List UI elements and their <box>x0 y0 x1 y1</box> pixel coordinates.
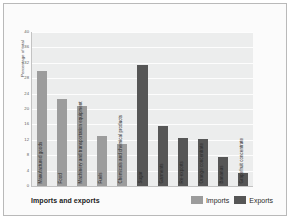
y-axis-tick-label: 16 <box>15 122 29 126</box>
y-axis-tick-label: 8 <box>15 153 29 157</box>
bar-slot: Orange concentrate <box>193 32 213 186</box>
y-axis-tick-label: 4 <box>15 168 29 172</box>
bar-slot: Sugar <box>132 32 152 186</box>
bar-group: Manufactured goodsFoodMachinery and tran… <box>32 32 253 186</box>
bar-slot: Chemicals and chemical products <box>112 32 132 186</box>
y-axis-tick-label: 0 <box>15 184 29 188</box>
x-axis-category-label: Machinery and transportation equipment <box>79 102 84 184</box>
legend-item[interactable]: Imports <box>191 196 229 204</box>
bar-slot: Bananas <box>213 32 233 186</box>
chart-screenshot: Percentage of total 0481216202428323640 … <box>0 0 292 221</box>
x-axis-category-label: Orange concentrate <box>200 143 205 184</box>
y-axis-tick-label: 36 <box>15 45 29 49</box>
x-axis-category-label: Food <box>59 174 64 184</box>
legend-item[interactable]: Exports <box>234 196 273 204</box>
legend-label: Imports <box>206 197 229 204</box>
legend: ImportsExports <box>191 196 273 204</box>
y-axis-tick-label: 32 <box>15 61 29 65</box>
bar-slot: Fuels <box>92 32 112 186</box>
legend-swatch <box>191 196 203 204</box>
x-axis-category-label: Manufactured goods <box>39 142 44 184</box>
bar-slot: Machinery and transportation equipment <box>72 32 92 186</box>
figure-frame: Percentage of total 0481216202428323640 … <box>3 3 287 216</box>
x-axis-category-label: Chemicals and chemical products <box>119 115 124 184</box>
y-axis-tick-label: 20 <box>15 107 29 111</box>
y-axis-tick-label: 40 <box>15 30 29 34</box>
bar[interactable] <box>137 65 147 186</box>
bar-slot: Food <box>52 32 72 186</box>
x-axis-category-label: Garments <box>160 164 165 184</box>
x-axis-category-label: Sugar <box>139 172 144 184</box>
y-axis-tick-label: 24 <box>15 91 29 95</box>
y-axis-tick-label: 28 <box>15 76 29 80</box>
x-axis-category-label: Fuels <box>99 173 104 184</box>
x-axis-category-label: Re-exports <box>180 162 185 184</box>
bar-slot: Garments <box>153 32 173 186</box>
chart-title: Imports and exports <box>31 197 100 204</box>
y-axis-tick-label: 12 <box>15 138 29 142</box>
legend-label: Exports <box>249 197 273 204</box>
x-axis-category-label: Grapefruit concentrate <box>240 138 245 184</box>
bar-slot: Manufactured goods <box>32 32 52 186</box>
legend-swatch <box>234 196 246 204</box>
x-axis-line <box>31 186 253 187</box>
y-axis-tick-labels: 0481216202428323640 <box>13 32 29 186</box>
x-axis-category-label: Bananas <box>220 166 225 184</box>
bar-slot: Grapefruit concentrate <box>233 32 253 186</box>
bar-slot: Re-exports <box>173 32 193 186</box>
